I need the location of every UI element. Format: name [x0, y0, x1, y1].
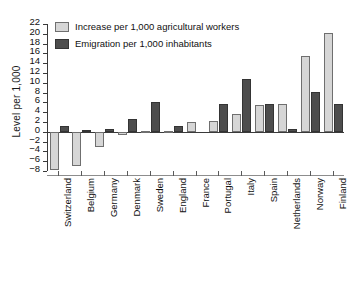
x-tick-mark [287, 171, 288, 176]
bar-group [323, 24, 346, 171]
bar-emigration [311, 92, 320, 132]
bar-emigration [128, 119, 137, 132]
bar-emigration [151, 102, 160, 131]
bar-chart: Level per 1,000 2220181614121086420−2−4−… [0, 0, 352, 291]
bar-increase [301, 56, 310, 131]
bar-group [254, 24, 277, 171]
bar-increase [324, 33, 333, 132]
x-axis-label: Netherlands [291, 178, 302, 229]
x-tick-mark [241, 171, 242, 176]
bar-increase [232, 114, 241, 132]
x-axis-label: Portugal [222, 178, 233, 213]
bar-increase [187, 122, 196, 132]
y-tick-label: 0 [35, 125, 40, 135]
x-axis-label: Switzerland [62, 178, 73, 227]
x-tick-mark [150, 171, 151, 176]
y-tick-label: 10 [29, 76, 40, 86]
bar-emigration [288, 129, 297, 131]
bar-emigration [60, 126, 69, 131]
chart-legend: Increase per 1,000 agricultural workers … [55, 20, 239, 54]
x-axis-label: France [200, 178, 211, 208]
x-tick-mark [58, 171, 59, 176]
x-tick-mark [218, 171, 219, 176]
legend-label-emigration: Emigration per 1,000 inhabitants [75, 38, 212, 49]
x-axis-label: Norway [314, 178, 325, 210]
light-gray-swatch-icon [55, 22, 69, 32]
bar-increase [164, 131, 173, 133]
bar-increase [95, 132, 104, 147]
x-axis-label: Denmark [131, 178, 142, 217]
bar-group [277, 24, 300, 171]
bar-emigration [265, 104, 274, 132]
bar-increase [118, 132, 127, 135]
bar-emigration [82, 130, 91, 132]
legend-item-increase: Increase per 1,000 agricultural workers [55, 20, 239, 33]
y-axis-title: Level per 1,000 [11, 52, 22, 152]
x-tick-mark [127, 171, 128, 176]
x-tick-mark [104, 171, 105, 176]
bar-emigration [334, 104, 343, 131]
bar-increase [50, 132, 59, 170]
y-tick-label: −8 [29, 164, 40, 174]
bar-increase [141, 131, 150, 133]
x-axis-labels: SwitzerlandBelgiumGermanyDenmarkSwedenEn… [47, 178, 344, 288]
x-tick-mark [333, 171, 334, 176]
bar-emigration [105, 129, 114, 131]
x-axis-ticks [47, 171, 344, 177]
bar-emigration [242, 79, 251, 132]
y-tick-label: 20 [29, 27, 40, 37]
bar-increase [255, 105, 264, 131]
x-axis-label: Italy [245, 178, 256, 195]
x-axis-label: Finland [337, 178, 348, 209]
x-axis-label: Belgium [85, 178, 96, 212]
legend-label-increase: Increase per 1,000 agricultural workers [75, 21, 239, 32]
bar-emigration [174, 126, 183, 131]
x-tick-mark [196, 171, 197, 176]
dark-gray-swatch-icon [55, 39, 69, 49]
x-axis-label: Spain [268, 178, 279, 202]
bar-increase [72, 132, 81, 166]
x-axis-label: Sweden [154, 178, 165, 212]
bar-emigration [219, 104, 228, 132]
legend-item-emigration: Emigration per 1,000 inhabitants [55, 37, 239, 50]
x-tick-mark [264, 171, 265, 176]
x-axis-label: England [177, 178, 188, 213]
x-axis-label: Germany [108, 178, 119, 217]
x-tick-mark [81, 171, 82, 176]
bar-increase [278, 104, 287, 131]
bar-increase [209, 121, 218, 132]
x-tick-mark [173, 171, 174, 176]
x-tick-mark [310, 171, 311, 176]
bar-group [300, 24, 323, 171]
